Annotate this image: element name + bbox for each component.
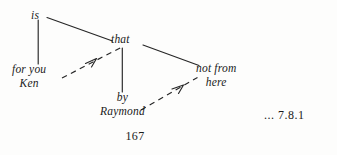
tree-node-for-you-ken: for you Ken — [12, 63, 46, 90]
edge-is-to-that — [47, 18, 113, 42]
tree-node-here-label: here — [196, 76, 236, 90]
tree-node-by-label: by — [117, 91, 128, 103]
tree-node-that: that — [111, 33, 130, 46]
movement-arrow-for-you-to-that — [62, 48, 121, 79]
tree-node-is: is — [31, 9, 39, 22]
tree-node-for-you-label: for you — [12, 63, 46, 75]
tree-node-by-raymond: by Raymond — [100, 91, 145, 118]
page-number: 167 — [112, 129, 158, 144]
tree-node-raymond-label: Raymond — [100, 105, 145, 119]
example-reference: ... 7.8.1 — [264, 108, 305, 123]
edge-that-to-not-from — [143, 45, 199, 66]
tree-node-ken-label: Ken — [12, 77, 46, 91]
tree-node-not-from-label: not from — [196, 62, 236, 74]
figure-page: is that for you Ken not from here by Ray… — [0, 0, 337, 155]
movement-arrow-raymond-to-here — [141, 78, 198, 111]
tree-node-not-from-here: not from here — [196, 62, 236, 89]
tree-lines-svg — [0, 0, 337, 155]
